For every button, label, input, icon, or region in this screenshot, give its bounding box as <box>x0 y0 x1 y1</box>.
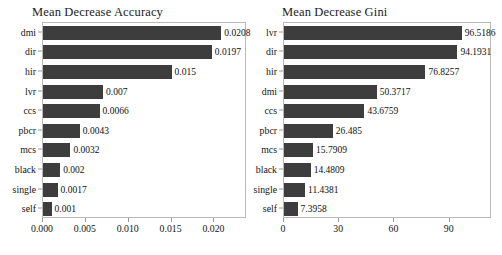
bar-row: 94.1931 <box>284 45 490 59</box>
x-tick-mark <box>393 218 394 222</box>
bar-row: 26.485 <box>284 124 490 138</box>
bar-row: 76.8257 <box>284 65 490 79</box>
bar-value-label: 0.015 <box>172 67 196 77</box>
bar-hir <box>284 65 425 79</box>
y-tick-label-single: single <box>13 183 36 194</box>
bar-dmi <box>284 85 377 99</box>
bar-value-label: 11.4381 <box>305 185 339 195</box>
panel-title-gini: Mean Decrease Gini <box>251 5 502 20</box>
bar-dmi <box>43 26 221 40</box>
bar-hir <box>43 65 172 79</box>
bar-row: 0.0017 <box>43 183 245 197</box>
bar-series-accuracy: 0.02080.01970.0150.0070.00660.00430.0032… <box>43 23 245 217</box>
y-tick-label-mcs: mcs <box>20 144 36 155</box>
bar-row: 0.002 <box>43 163 245 177</box>
bar-row: 0.0066 <box>43 104 245 118</box>
bar-row: 0.0208 <box>43 26 245 40</box>
bar-row: 0.0032 <box>43 143 245 157</box>
bar-self <box>284 202 298 216</box>
bar-value-label: 0.0066 <box>100 106 129 116</box>
x-tick-label: 30 <box>333 223 343 234</box>
x-tick-label: 90 <box>444 223 454 234</box>
bar-lvr <box>284 26 462 40</box>
bar-dir <box>284 45 457 59</box>
bar-value-label: 14.4809 <box>311 165 345 175</box>
bar-value-label: 0.002 <box>60 165 84 175</box>
bar-mcs <box>284 143 313 157</box>
y-tick-label-dmi: dmi <box>21 26 36 37</box>
panel-title-accuracy: Mean Decrease Accuracy <box>0 5 283 20</box>
bar-value-label: 15.7909 <box>313 145 347 155</box>
bar-value-label: 43.6759 <box>364 106 398 116</box>
x-tick-mark <box>171 218 172 222</box>
bar-value-label: 26.485 <box>333 126 362 136</box>
bar-pbcr <box>284 124 333 138</box>
x-axis-accuracy: 0.0000.0050.0100.0150.020 <box>42 218 246 244</box>
panel-mean-decrease-accuracy: Mean Decrease Accuracy dmidirhirlvrccspb… <box>0 0 251 255</box>
bar-dir <box>43 45 212 59</box>
y-tick-label-self: self <box>263 203 277 214</box>
bar-row: 50.3717 <box>284 85 490 99</box>
x-tick-label: 0.000 <box>31 223 53 234</box>
figure-variable-importance: Mean Decrease Accuracy dmidirhirlvrccspb… <box>0 0 502 255</box>
x-tick-label: 0.020 <box>202 223 224 234</box>
x-tick-mark <box>42 218 43 222</box>
bar-row: 7.3958 <box>284 202 490 216</box>
bar-row: 43.6759 <box>284 104 490 118</box>
x-tick-label: 0.015 <box>160 223 182 234</box>
bar-self <box>43 202 52 216</box>
panel-mean-decrease-gini: Mean Decrease Gini lvrdirhirdmiccspbcrmc… <box>251 0 502 255</box>
bar-value-label: 0.0032 <box>70 145 99 155</box>
bar-lvr <box>43 85 103 99</box>
bar-ccs <box>43 104 100 118</box>
bar-value-label: 0.001 <box>52 204 76 214</box>
y-tick-label-mcs: mcs <box>261 144 277 155</box>
bar-value-label: 0.0208 <box>221 28 250 38</box>
bar-value-label: 0.0017 <box>58 185 87 195</box>
bar-single <box>284 183 305 197</box>
bar-black <box>284 163 311 177</box>
y-tick-label-self: self <box>22 203 36 214</box>
bar-row: 96.5186 <box>284 26 490 40</box>
x-tick-mark <box>283 218 284 222</box>
y-tick-label-hir: hir <box>266 66 277 77</box>
y-tick-label-ccs: ccs <box>264 105 277 116</box>
x-tick-label: 60 <box>389 223 399 234</box>
y-axis-accuracy: dmidirhirlvrccspbcrmcsblacksingleself <box>0 22 42 218</box>
y-axis-gini: lvrdirhirdmiccspbcrmcsblacksingleself <box>251 22 283 218</box>
bar-mcs <box>43 143 70 157</box>
bar-row: 14.4809 <box>284 163 490 177</box>
bar-row: 0.001 <box>43 202 245 216</box>
bar-pbcr <box>43 124 80 138</box>
bar-value-label: 0.0197 <box>212 47 241 57</box>
y-tick-label-lvr: lvr <box>25 85 36 96</box>
x-tick-mark <box>449 218 450 222</box>
x-tick-label: 0.010 <box>117 223 139 234</box>
bar-value-label: 96.5186 <box>462 28 496 38</box>
x-tick-mark <box>85 218 86 222</box>
bar-row: 0.007 <box>43 85 245 99</box>
y-tick-label-single: single <box>254 183 277 194</box>
bar-value-label: 0.0043 <box>80 126 109 136</box>
bar-ccs <box>284 104 364 118</box>
bar-black <box>43 163 60 177</box>
bar-value-label: 7.3958 <box>298 204 327 214</box>
x-tick-mark <box>128 218 129 222</box>
y-tick-label-black: black <box>15 164 36 175</box>
bar-value-label: 50.3717 <box>377 87 411 97</box>
y-tick-label-dir: dir <box>266 46 277 57</box>
x-tick-mark <box>213 218 214 222</box>
x-tick-mark <box>338 218 339 222</box>
bar-row: 0.0197 <box>43 45 245 59</box>
y-tick-label-pbcr: pbcr <box>260 124 277 135</box>
x-tick-label: 0.005 <box>74 223 96 234</box>
y-tick-label-pbcr: pbcr <box>19 124 36 135</box>
y-tick-label-dir: dir <box>25 46 36 57</box>
bar-value-label: 76.8257 <box>425 67 459 77</box>
y-tick-label-hir: hir <box>25 66 36 77</box>
plot-area-accuracy: 0.02080.01970.0150.0070.00660.00430.0032… <box>42 22 246 218</box>
bar-row: 0.015 <box>43 65 245 79</box>
bar-single <box>43 183 58 197</box>
bar-row: 11.4381 <box>284 183 490 197</box>
x-axis-gini: 0306090 <box>283 218 491 244</box>
